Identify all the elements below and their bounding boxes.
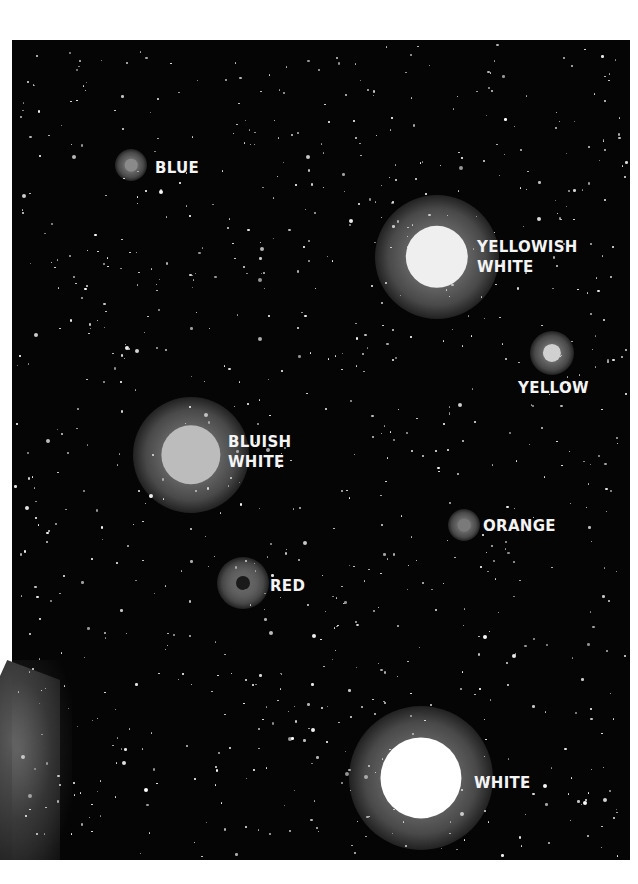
background-star <box>355 63 357 65</box>
background-star <box>84 657 86 659</box>
background-star <box>286 549 288 551</box>
background-star <box>140 853 142 855</box>
background-star <box>333 528 335 530</box>
background-star <box>371 285 373 287</box>
background-star <box>305 209 307 211</box>
background-star <box>544 476 546 478</box>
background-star <box>570 820 572 822</box>
background-star <box>338 722 340 724</box>
background-star <box>537 217 541 221</box>
background-star <box>85 90 87 92</box>
background-star <box>509 432 511 434</box>
background-star <box>57 472 59 474</box>
background-star <box>601 847 603 849</box>
background-star <box>78 66 80 68</box>
background-star <box>406 432 408 434</box>
background-star <box>191 684 193 686</box>
background-star <box>561 465 563 467</box>
background-star <box>417 46 419 48</box>
background-star <box>609 73 611 75</box>
background-star <box>491 90 494 93</box>
background-star <box>89 817 91 819</box>
background-star <box>121 95 124 98</box>
background-star <box>471 335 473 337</box>
background-star <box>617 443 619 445</box>
background-star <box>73 782 75 784</box>
background-star <box>293 508 295 510</box>
background-star <box>138 272 140 274</box>
background-star <box>68 708 70 710</box>
background-star <box>584 49 586 51</box>
background-star <box>514 508 516 510</box>
background-star <box>159 279 161 281</box>
background-star <box>345 94 347 96</box>
background-star <box>459 166 463 170</box>
background-star <box>182 673 184 675</box>
background-star <box>76 69 79 72</box>
background-star <box>570 503 572 505</box>
background-star <box>87 444 89 446</box>
background-star <box>288 711 290 713</box>
background-star <box>178 679 180 681</box>
background-star <box>588 526 591 529</box>
background-star <box>73 276 75 278</box>
background-star <box>151 732 153 734</box>
background-star <box>259 257 262 260</box>
background-star <box>519 836 522 839</box>
background-star <box>489 631 491 633</box>
background-star <box>258 728 260 730</box>
background-star <box>258 748 260 750</box>
background-star <box>359 143 361 145</box>
background-star <box>321 143 323 145</box>
background-star <box>23 102 25 104</box>
background-star <box>332 260 334 262</box>
background-star <box>39 703 41 705</box>
background-star <box>336 597 338 599</box>
star-core <box>161 425 220 484</box>
background-star <box>551 567 553 569</box>
background-star <box>624 655 626 657</box>
background-star <box>59 328 61 330</box>
background-star <box>395 179 397 181</box>
background-star <box>269 74 271 76</box>
background-star <box>533 638 535 640</box>
background-star <box>57 259 59 261</box>
background-star <box>284 805 286 807</box>
background-star <box>147 316 149 318</box>
background-star <box>245 679 247 681</box>
background-star <box>356 337 359 340</box>
background-star <box>117 737 119 739</box>
background-star <box>619 117 621 119</box>
background-star <box>231 673 233 675</box>
background-star <box>555 127 557 129</box>
background-star <box>336 626 338 628</box>
background-star <box>364 580 366 582</box>
background-star <box>308 260 310 262</box>
background-star <box>322 575 324 577</box>
background-star <box>243 703 245 705</box>
background-star <box>104 327 106 329</box>
background-star <box>114 367 117 370</box>
background-star <box>520 187 522 189</box>
background-star <box>491 545 494 548</box>
background-star <box>63 575 65 577</box>
background-star <box>263 272 265 274</box>
background-star <box>355 323 357 325</box>
background-star <box>604 199 606 201</box>
background-star <box>283 92 285 94</box>
background-star <box>315 288 317 290</box>
background-star <box>378 607 380 609</box>
background-star <box>346 490 348 492</box>
background-star <box>438 471 440 473</box>
background-star <box>124 358 126 360</box>
background-star <box>129 252 131 254</box>
background-star <box>91 558 93 560</box>
background-star <box>328 121 330 123</box>
background-star <box>395 164 397 166</box>
background-star <box>281 370 283 372</box>
background-star <box>29 633 31 635</box>
background-star <box>341 490 343 492</box>
background-star <box>597 290 600 293</box>
background-star <box>121 410 124 413</box>
background-star <box>114 110 116 112</box>
